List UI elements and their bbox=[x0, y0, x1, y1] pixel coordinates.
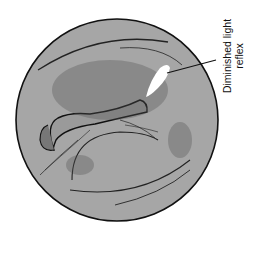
annotation-line2: reflex bbox=[233, 18, 245, 92]
annotation-label: Diminished light reflex bbox=[218, 8, 248, 103]
annotation-line1: Diminished light bbox=[221, 18, 233, 92]
